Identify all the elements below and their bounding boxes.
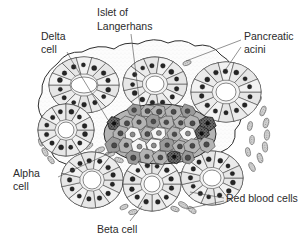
acinus-bottom-left-nucleus	[110, 182, 114, 186]
acinus-mid-left-nucleus	[59, 145, 64, 150]
acinus-bottom-right-nucleus	[191, 184, 195, 188]
acinus-top-left-nucleus	[58, 87, 62, 91]
acinus-mid-left-nucleus	[82, 124, 87, 129]
acinus-top-left-nucleus	[106, 87, 111, 92]
acinus-top-left-lumen	[71, 77, 97, 93]
acinus-top-right-nucleus	[243, 77, 247, 81]
acinus-top-right-nucleus	[199, 94, 204, 99]
acinus-top-center-lumen	[146, 76, 164, 92]
acinus-mid-left-nucleus	[50, 141, 55, 146]
acinus-top-center-nucleus	[130, 82, 134, 86]
acinus-top-left-nucleus	[57, 77, 62, 82]
acinus-bottom-center-nucleus	[169, 186, 174, 191]
acinus-top-center-nucleus	[174, 77, 178, 81]
acinus-top-right-nucleus	[213, 70, 218, 75]
acinus-bottom-right-nucleus	[218, 158, 223, 163]
acinus-bottom-center-nucleus	[164, 168, 169, 173]
islet-alpha-beta-cell-nucleus	[185, 155, 191, 161]
islet-beta-cell-light-nucleus	[130, 132, 135, 137]
acinus-bottom-center	[123, 157, 181, 211]
acinus-mid-left-nucleus	[45, 123, 49, 127]
acinus-mid-left-lumen	[58, 122, 74, 138]
acinus-bottom-left-nucleus	[78, 161, 83, 166]
acinus-top-center-nucleus	[174, 86, 179, 91]
acinus-bottom-left-nucleus	[67, 178, 72, 183]
islet-alpha-beta-cell-nucleus	[204, 142, 210, 148]
label-delta-line2: cell	[41, 43, 57, 55]
islet-of-langerhans	[104, 104, 216, 165]
acinus-bottom-left	[61, 152, 123, 208]
acinus-bottom-right-nucleus	[230, 171, 234, 175]
acinus-bottom-left-lumen	[83, 171, 101, 189]
acinus-bottom-left-nucleus	[97, 159, 102, 164]
acinus-bottom-left-nucleus	[77, 194, 81, 198]
label-islet-line2: Langerhans	[97, 20, 152, 32]
acinus-top-right-nucleus	[205, 103, 210, 108]
islet-alpha-beta-cell-nucleus	[145, 154, 150, 159]
acinus-mid-left-nucleus	[69, 145, 73, 149]
acinus-top-right-nucleus	[205, 77, 210, 82]
acinus-mid-left-nucleus	[77, 115, 81, 119]
acinus-top-left-nucleus	[72, 100, 76, 104]
islet-beta-cell-light-nucleus	[156, 131, 161, 136]
label-delta-line1: Delta	[41, 30, 66, 42]
acinus-top-center	[123, 57, 187, 111]
acinus-bottom-center-lumen	[144, 176, 160, 192]
acinus-bottom-right-nucleus	[206, 157, 211, 162]
acinus-top-left-nucleus	[62, 95, 67, 100]
islet-alpha-beta-cell-nucleus	[177, 144, 182, 149]
acinus-top-right-nucleus	[242, 103, 247, 108]
acinus-bottom-center-nucleus	[130, 177, 135, 182]
acinus-top-right-nucleus	[248, 94, 253, 99]
label-acini-line2: acini	[244, 43, 266, 55]
acinus-bottom-left-nucleus	[111, 173, 116, 178]
islet-delta-cell-nucleus	[206, 121, 210, 125]
acinus-bottom-center-nucleus	[129, 187, 134, 192]
acinus-mid-left	[38, 104, 94, 156]
label-beta-cell: Beta cell	[97, 223, 137, 235]
islet-alpha-beta-cell-nucleus	[185, 109, 190, 114]
label-red-blood-cells: Red blood cells	[226, 192, 298, 204]
label-beta-line1: Beta cell	[97, 223, 137, 235]
islet-delta-cell-nucleus	[172, 155, 176, 159]
acinus-top-center-nucleus	[140, 97, 145, 102]
acinus-bottom-right-nucleus	[191, 167, 196, 172]
acinus-top-left-nucleus	[62, 71, 67, 76]
acinus-top-center-nucleus	[169, 69, 174, 74]
acinus-top-left-nucleus	[92, 65, 97, 70]
acinus-top-center-nucleus	[141, 66, 145, 70]
acinus-bottom-center-nucleus	[144, 199, 149, 204]
pancreas-histology-figure: Islet of Langerhans Delta cell Pancreati…	[0, 0, 306, 241]
acinus-bottom-center-nucleus	[135, 195, 140, 200]
histology-drawing: Islet of Langerhans Delta cell Pancreati…	[0, 0, 306, 241]
islet-alpha-beta-cell-nucleus	[190, 143, 195, 148]
label-alpha-line1: Alpha	[13, 167, 40, 179]
islet-alpha-beta-cell-nucleus	[131, 155, 136, 160]
acinus-bottom-right-nucleus	[226, 164, 230, 168]
islet-alpha-beta-cell-nucleus	[165, 143, 170, 148]
acinus-bottom-left-nucleus	[70, 187, 75, 192]
acinus-mid-left-nucleus	[82, 132, 87, 137]
acinus-mid-left-nucleus	[50, 115, 55, 120]
acinus-bottom-center-nucleus	[164, 195, 169, 200]
islet-alpha-beta-cell-nucleus	[124, 121, 129, 126]
acinus-bottom-right-nucleus	[230, 180, 235, 185]
islet-alpha-beta-cell-nucleus	[172, 132, 177, 137]
acinus-bottom-center-nucleus	[136, 168, 140, 172]
acinus-top-right-nucleus	[234, 108, 239, 113]
label-islet-line1: Islet of	[97, 6, 128, 18]
acinus-top-right-nucleus	[224, 111, 228, 115]
acinus-bottom-center-nucleus	[155, 164, 159, 168]
islet-alpha-beta-cell-nucleus	[118, 131, 123, 136]
label-rbc-line1: Red blood cells	[226, 192, 298, 204]
acinus-top-center-nucleus	[161, 63, 166, 68]
islet-delta-cell-nucleus	[200, 131, 204, 135]
acinus-bottom-left-nucleus	[106, 191, 111, 196]
acinus-top-left-nucleus	[102, 94, 106, 98]
acinus-mid-left-nucleus	[78, 141, 83, 146]
acinus-top-right-nucleus	[200, 84, 205, 89]
islet-alpha-beta-cell-nucleus	[151, 119, 156, 124]
acinus-top-right-nucleus	[223, 69, 228, 74]
acinus-bottom-right-nucleus	[188, 175, 193, 180]
acinus-bottom-left-nucleus	[97, 196, 102, 201]
